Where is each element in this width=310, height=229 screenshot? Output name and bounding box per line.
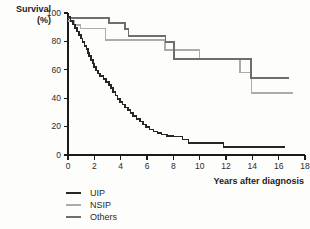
x-tick-label: 4 xyxy=(118,161,123,171)
x-tick-label: 2 xyxy=(92,161,97,171)
y-tick-label: 20 xyxy=(52,121,62,131)
legend-label-uip: UIP xyxy=(90,187,105,199)
legend-label-nsip: NSIP xyxy=(90,199,111,211)
y-tick-label: 60 xyxy=(52,65,62,75)
x-tick-label: 18 xyxy=(300,161,310,171)
uip-line-swatch xyxy=(66,192,81,194)
y-tick-label: 100 xyxy=(47,8,61,18)
legend-item-uip: UIP xyxy=(66,187,117,199)
nsip-line-swatch xyxy=(66,204,81,206)
x-tick-label: 12 xyxy=(221,161,231,171)
legend: UIP NSIP Others xyxy=(66,187,117,223)
others-survival-curve xyxy=(68,18,289,78)
legend-item-nsip: NSIP xyxy=(66,199,117,211)
uip-survival-curve xyxy=(68,17,285,147)
x-tick-label: 8 xyxy=(171,161,176,171)
x-axis-title: Years after diagnosis xyxy=(213,176,304,186)
nsip-survival-curve xyxy=(68,21,293,93)
x-tick-label: 16 xyxy=(274,161,284,171)
x-tick-label: 10 xyxy=(195,161,205,171)
y-tick-label: 80 xyxy=(52,36,62,46)
y-tick-label: 40 xyxy=(52,93,62,103)
others-line-swatch xyxy=(66,216,81,218)
x-tick-label: 6 xyxy=(145,161,150,171)
legend-item-others: Others xyxy=(66,211,117,223)
survival-plot: 020406080100024681012141618 xyxy=(0,0,310,229)
survival-figure: Survival (%) 020406080100024681012141618… xyxy=(0,0,310,229)
legend-label-others: Others xyxy=(90,211,117,223)
x-tick-label: 14 xyxy=(248,161,258,171)
x-tick-label: 0 xyxy=(66,161,71,171)
y-tick-label: 0 xyxy=(56,150,61,160)
